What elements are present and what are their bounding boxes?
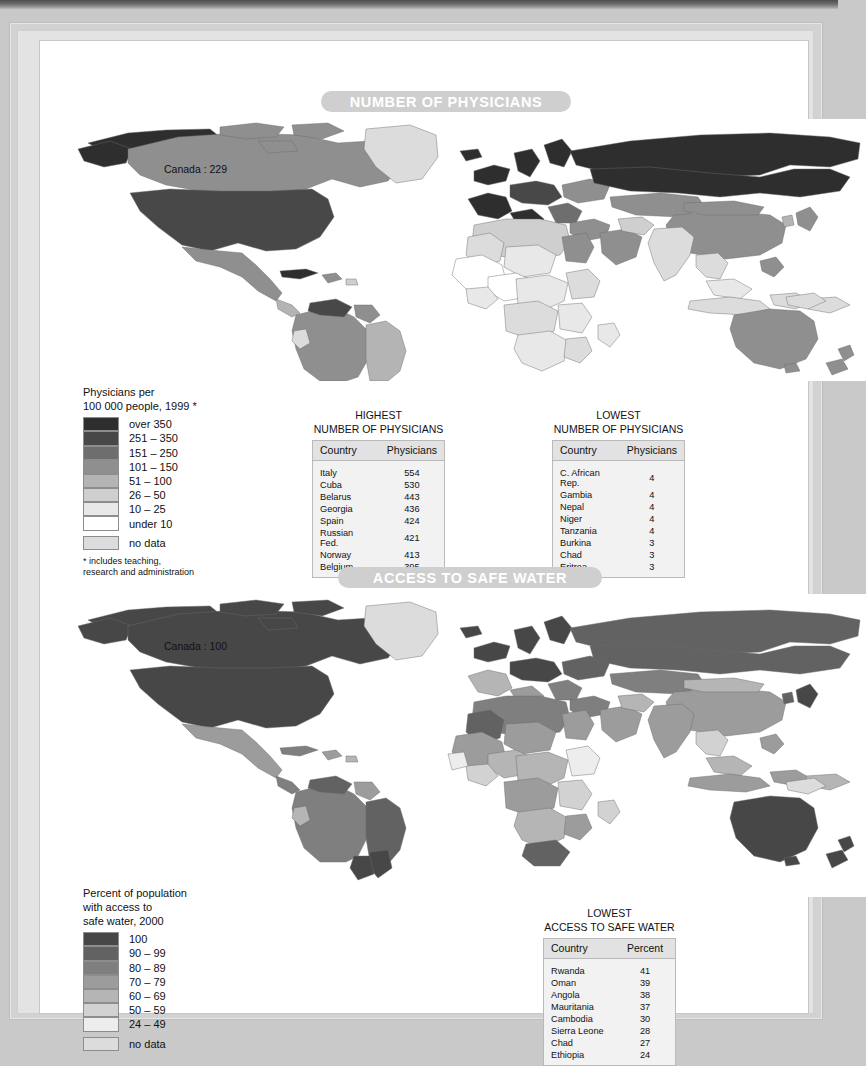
legend-class-label: over 350 [129, 417, 172, 431]
table-caption: HIGHEST NUMBER OF PHYSICIANS [312, 409, 445, 436]
table-row: Ethiopia24 [544, 1049, 676, 1066]
table-row: Tanzania4 [553, 525, 685, 537]
cell-country: Ethiopia [544, 1049, 616, 1066]
legend-class-label: 101 – 150 [129, 460, 178, 474]
world-map-physicians-svg [70, 119, 866, 381]
legend-physicians: Physicians per 100 000 people, 1999 * ov… [83, 385, 197, 578]
table: Country Physicians C. African Rep.4 Gamb… [552, 440, 685, 578]
table-row: Niger4 [553, 513, 685, 525]
table-row: Rwanda41 [544, 959, 676, 978]
cell-value: 4 [620, 501, 685, 513]
legend-swatch [83, 516, 119, 530]
legend-class-label: 151 – 250 [129, 446, 178, 460]
cell-country: Oman [544, 977, 616, 989]
map-callout-canada-physicians: Canada : 229 [164, 163, 227, 175]
legend-class-label: 100 [129, 932, 147, 946]
legend-swatch [83, 417, 119, 431]
cell-value: 4 [620, 461, 685, 490]
legend-class-row: 80 – 89 [83, 961, 187, 975]
legend-nodata-row: no data [83, 1037, 187, 1051]
cell-value: 30 [615, 1013, 676, 1025]
cell-value: 4 [620, 513, 685, 525]
table-row: Angola38 [544, 989, 676, 1001]
legend-swatch [83, 446, 119, 460]
legend-class-row: 60 – 69 [83, 989, 187, 1003]
legend-swatch [83, 932, 119, 946]
cell-country: Tanzania [553, 525, 620, 537]
cell-value: 436 [380, 503, 445, 515]
table-header-row: Country Physicians [553, 441, 685, 461]
table-row: Chad3 [553, 549, 685, 561]
cell-country: Georgia [313, 503, 380, 515]
cell-value: 413 [380, 549, 445, 561]
cell-value: 3 [620, 537, 685, 549]
table-row: C. African Rep.4 [553, 461, 685, 490]
cell-country: Chad [544, 1037, 616, 1049]
table-header-row: Country Physicians [313, 441, 445, 461]
table-row: Belarus443 [313, 491, 445, 503]
table-row: Georgia436 [313, 503, 445, 515]
cell-country: C. African Rep. [553, 461, 620, 490]
page-sheet-mid: NUMBER OF PHYSICIANS [17, 30, 814, 1014]
legend-class-row: 26 – 50 [83, 488, 197, 502]
table-header-value: Physicians [620, 441, 685, 461]
legend-class-label: 10 – 25 [129, 502, 166, 516]
legend-swatch [83, 1017, 119, 1031]
legend-swatch [83, 502, 119, 516]
legend-class-label: 26 – 50 [129, 488, 166, 502]
legend-nodata-label: no data [129, 536, 166, 550]
legend-class-row: 24 – 49 [83, 1017, 187, 1031]
cell-country: Sierra Leone [544, 1025, 616, 1037]
cell-value: 24 [615, 1049, 676, 1066]
cell-value: 37 [615, 1001, 676, 1013]
cell-country: Russian Fed. [313, 527, 380, 549]
table-caption: LOWEST NUMBER OF PHYSICIANS [552, 409, 685, 436]
table-lowest-physicians: LOWEST NUMBER OF PHYSICIANS Country Phys… [552, 409, 685, 578]
cell-value: 554 [380, 461, 445, 480]
legend-physicians-note: * includes teaching, research and admini… [83, 556, 197, 579]
table-header-country: Country [553, 441, 620, 461]
legend-swatch [83, 460, 119, 474]
cell-country: Spain [313, 515, 380, 527]
legend-class-label: 70 – 79 [129, 975, 166, 989]
table: Country Physicians Italy554 Cuba530 Bela… [312, 440, 445, 578]
table-row: Gambia4 [553, 489, 685, 501]
legend-class-row: 51 – 100 [83, 474, 197, 488]
table-highest-physicians: HIGHEST NUMBER OF PHYSICIANS Country Phy… [312, 409, 445, 578]
legend-nodata-label: no data [129, 1037, 166, 1051]
legend-safe-water-title: Percent of population with access to saf… [83, 886, 187, 928]
cell-value: 4 [620, 525, 685, 537]
legend-swatch [83, 989, 119, 1003]
table-row: Cambodia30 [544, 1013, 676, 1025]
cell-country: Angola [544, 989, 616, 1001]
page-sheet-outer: NUMBER OF PHYSICIANS [9, 22, 823, 1020]
map-banner-physicians: NUMBER OF PHYSICIANS [321, 91, 571, 112]
table-row: Chad27 [544, 1037, 676, 1049]
cell-country: Niger [553, 513, 620, 525]
table-row: Spain424 [313, 515, 445, 527]
table-row: Cuba530 [313, 479, 445, 491]
cell-country: Nepal [553, 501, 620, 513]
cell-value: 4 [620, 489, 685, 501]
map-banner-safe-water: ACCESS TO SAFE WATER [338, 567, 602, 588]
table-lowest-safe-water: LOWEST ACCESS TO SAFE WATER Country Perc… [543, 907, 676, 1066]
cell-value: 27 [615, 1037, 676, 1049]
table-row: Russian Fed.421 [313, 527, 445, 549]
legend-class-label: 251 – 350 [129, 431, 178, 445]
legend-swatch [83, 431, 119, 445]
cell-value: 38 [615, 989, 676, 1001]
legend-class-label: 90 – 99 [129, 946, 166, 960]
legend-class-row: 151 – 250 [83, 446, 197, 460]
table-row: Sierra Leone28 [544, 1025, 676, 1037]
table-row: Norway413 [313, 549, 445, 561]
legend-class-row: 251 – 350 [83, 431, 197, 445]
legend-swatch-nodata [83, 1037, 119, 1051]
table-header-row: Country Percent [544, 939, 676, 959]
legend-swatch [83, 488, 119, 502]
table-row: Mauritania37 [544, 1001, 676, 1013]
cell-country: Rwanda [544, 959, 616, 978]
table: Country Percent Rwanda41 Oman39 Angola38… [543, 938, 676, 1066]
legend-class-label: 80 – 89 [129, 961, 166, 975]
map-callout-canada-safe-water: Canada : 100 [164, 640, 227, 652]
legend-class-label: under 10 [129, 517, 172, 531]
